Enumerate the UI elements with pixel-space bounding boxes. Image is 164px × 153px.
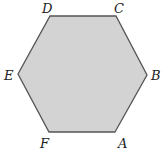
vertex-label-d: D — [41, 1, 53, 16]
vertex-label-b: B — [150, 68, 161, 83]
vertex-label-e: E — [3, 68, 14, 83]
vertex-label-f: F — [39, 136, 50, 151]
hexagon-diagram: A B C D E F — [0, 0, 164, 153]
vertex-label-c: C — [114, 1, 124, 16]
vertex-label-a: A — [117, 136, 127, 151]
hexagon-shape — [18, 16, 147, 132]
hexagon-svg: A B C D E F — [0, 0, 164, 153]
